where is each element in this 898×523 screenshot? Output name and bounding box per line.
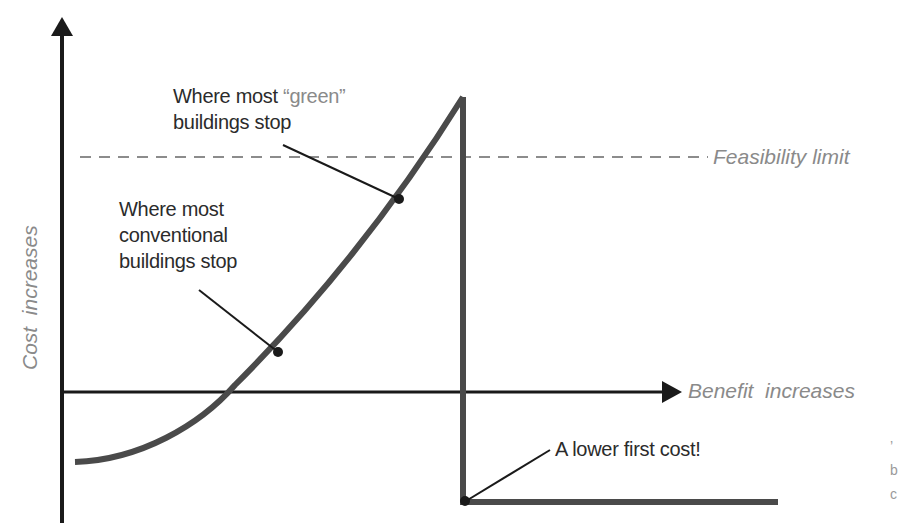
lower-first-cost-label: A lower first cost!	[555, 436, 700, 462]
feasibility-limit-label: Feasibility limit	[713, 145, 850, 169]
lower-cost-point	[460, 496, 470, 506]
x-axis-arrowhead-icon	[662, 381, 682, 403]
green-label-line2: buildings stop	[173, 109, 345, 135]
cut-off-text: ’ b c	[890, 434, 898, 506]
conventional-label-line3: buildings stop	[119, 248, 237, 274]
conventional-label-line2: conventional	[119, 222, 237, 248]
cost-curve	[75, 97, 463, 462]
cut-off-line-1: ’	[890, 434, 898, 458]
green-buildings-label: Where most “green” buildings stop	[173, 83, 345, 135]
conventional-buildings-label: Where most conventional buildings stop	[119, 196, 237, 274]
green-label-quoted: “green”	[283, 85, 345, 107]
green-leader-line	[283, 145, 399, 199]
conventional-label-line1: Where most	[119, 196, 237, 222]
conventional-leader-line	[199, 290, 278, 352]
y-axis-label: Cost increases	[18, 225, 42, 370]
x-axis-label: Benefit increases	[688, 379, 855, 403]
conventional-stop-point	[273, 347, 283, 357]
green-stop-point	[394, 194, 404, 204]
cut-off-line-2: b	[890, 458, 898, 482]
y-axis-arrowhead-icon	[51, 17, 73, 36]
lower-cost-leader-line	[466, 450, 550, 501]
cut-off-line-3: c	[890, 482, 898, 506]
green-label-prefix: Where most	[173, 85, 278, 107]
